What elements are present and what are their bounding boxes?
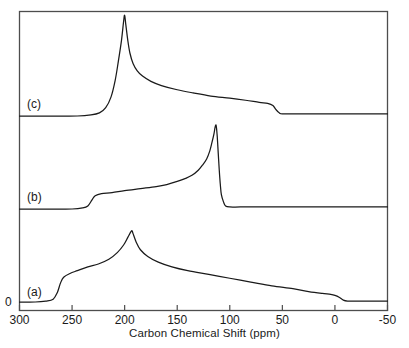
spectrum-trace-c [20, 15, 388, 116]
x-tick-label-300: 300 [9, 313, 29, 327]
nmr-spectra-figure: 300250200150100500-50 0 (a) (b) (c) Carb… [0, 0, 409, 348]
curve-label-c: (c) [27, 97, 41, 111]
plot-frame [20, 12, 388, 311]
curve-label-a: (a) [27, 285, 42, 299]
x-tick-label--50: -50 [379, 313, 396, 327]
spectrum-trace-a [20, 231, 388, 302]
x-tick-label-50: 50 [276, 313, 289, 327]
y-axis-zero-label: 0 [5, 295, 12, 309]
curve-label-b: (b) [27, 190, 42, 204]
x-tick-label-150: 150 [167, 313, 187, 327]
x-tick-label-250: 250 [62, 313, 82, 327]
x-axis-title: Carbon Chemical Shift (ppm) [0, 327, 409, 339]
x-tick-label-200: 200 [115, 313, 135, 327]
spectra-curves [20, 15, 388, 302]
x-tick-label-100: 100 [220, 313, 240, 327]
spectrum-trace-b [20, 125, 388, 209]
x-tick-label-0: 0 [332, 313, 339, 327]
plot-canvas [0, 0, 409, 348]
